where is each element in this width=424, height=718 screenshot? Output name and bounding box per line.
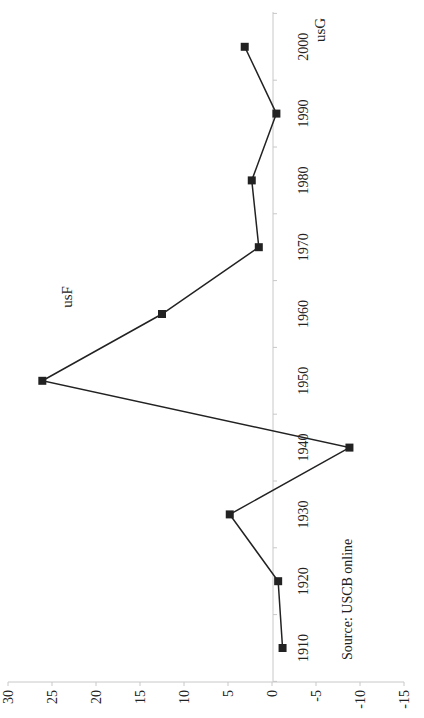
svg-text:-15: -15 [397, 690, 412, 709]
source-note: Source: USCB online [340, 539, 355, 660]
annotation-usF: usF [59, 286, 75, 308]
data-series [38, 43, 353, 652]
svg-text:5: 5 [221, 690, 236, 697]
svg-text:15: 15 [133, 690, 148, 704]
svg-text:-5: -5 [309, 690, 324, 702]
svg-text:25: 25 [45, 690, 60, 704]
svg-text:1960: 1960 [296, 300, 311, 328]
svg-text:20: 20 [89, 690, 104, 704]
svg-text:1950: 1950 [296, 367, 311, 395]
rotated-line-chart: 302520151050-5-10-1519101920193019401950… [0, 0, 424, 718]
svg-text:2000: 2000 [296, 33, 311, 61]
svg-text:1980: 1980 [296, 166, 311, 194]
svg-text:-10: -10 [353, 690, 368, 709]
svg-text:1910: 1910 [296, 634, 311, 662]
svg-text:0: 0 [265, 690, 280, 697]
svg-text:1930: 1930 [296, 500, 311, 528]
svg-text:30: 30 [1, 690, 16, 704]
svg-text:10: 10 [177, 690, 192, 704]
svg-text:1990: 1990 [296, 100, 311, 128]
svg-text:1920: 1920 [296, 567, 311, 595]
svg-text:1970: 1970 [296, 233, 311, 261]
annotation-usG: usG [312, 18, 328, 42]
